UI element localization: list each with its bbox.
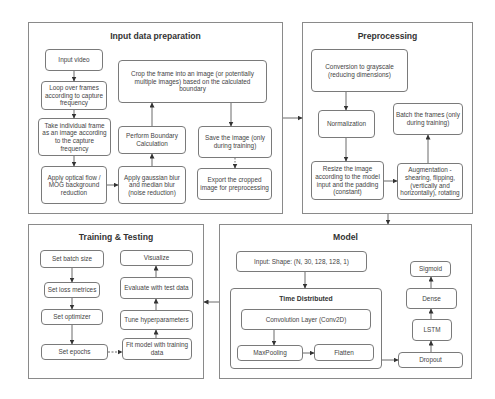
node-gaussian-blur: Apply gaussian blur and median blur (noi… [118,166,186,204]
node-input-video: Input video [45,49,103,71]
node-label: Conversion to grayscale (reducing dimens… [314,63,405,78]
node-set-epochs: Set epochs [41,344,108,360]
node-label: Augmentation - shearing, flipping, (vert… [400,166,460,196]
node-label: Perform Boundary Calculation [121,132,183,147]
node-conv2d: Convolution Layer (Conv2D) [241,309,371,330]
node-label: Fit model with training data [125,341,189,356]
node-label: Input video [58,56,89,64]
node-label: Resize the image according to the model … [314,165,381,195]
panel-title-input-data-preparation: Input data preparation [29,31,282,41]
node-label: Apply optical flow / MOG background redu… [44,174,104,197]
node-boundary-calculation: Perform Boundary Calculation [118,126,186,154]
node-set-batch-size: Set batch size [40,250,104,268]
node-label: Flatten [334,349,354,357]
node-set-optimizer: Set optimizer [41,309,103,325]
node-save-image: Save the image (only during training) [198,126,272,158]
node-label: Dense [422,295,440,303]
node-maxpooling: MaxPooling [237,345,303,361]
node-label: Set loss metrices [48,286,97,294]
node-export-image: Export the cropped image for preprocessi… [197,168,272,200]
node-label: Input: Shape: (N, 30, 128, 128, 1) [254,258,349,266]
node-label: Crop the frame into an image (or potenti… [121,70,264,93]
node-loop-frames: Loop over frames according to capture fr… [41,81,107,110]
panel-title-preprocessing: Preprocessing [303,31,472,41]
node-sigmoid: Sigmoid [410,261,451,277]
node-set-loss-metrics: Set loss metrices [44,282,100,298]
node-take-frame: Take individual frame as an image accord… [38,118,111,156]
node-label: Sigmoid [419,265,442,273]
node-optical-flow: Apply optical flow / MOG background redu… [41,166,107,204]
node-label: Export the cropped image for preprocessi… [200,176,269,191]
node-visualize: Visualize [120,250,193,266]
node-augmentation: Augmentation - shearing, flipping, (vert… [397,163,463,200]
node-label: Convolution Layer (Conv2D) [266,316,347,324]
node-resize: Resize the image according to the model … [311,161,384,200]
node-label: Loop over frames according to capture fr… [44,84,104,107]
node-evaluate: Evaluate with test data [120,277,193,299]
node-input-shape: Input: Shape: (N, 30, 128, 128, 1) [236,251,367,272]
node-label: Evaluate with test data [124,284,188,292]
node-label: LSTM [423,326,440,334]
node-normalization: Normalization [318,110,375,138]
node-lstm: LSTM [412,319,452,341]
node-label: Tune hyperparameters [124,316,188,324]
node-grayscale: Conversion to grayscale (reducing dimens… [311,49,408,92]
node-label: Set optimizer [53,313,90,321]
node-dense: Dense [406,288,457,309]
panel-title-model: Model [220,232,471,242]
node-label: MaxPooling [253,349,286,357]
group-title-time-distributed: Time Distributed [231,295,381,302]
node-flatten: Flatten [314,344,374,361]
node-label: Visualize [144,254,169,262]
node-label: Save the image (only during training) [201,134,269,149]
node-dropout: Dropout [398,352,463,368]
panel-title-training-testing: Training & Testing [29,232,203,242]
node-label: Set batch size [52,255,92,263]
node-label: Set epochs [59,348,91,356]
node-batch-frames: Batch the frames (only during training) [393,103,463,135]
node-label: Batch the frames (only during training) [396,111,460,126]
node-label: Take individual frame as an image accord… [41,122,108,152]
node-label: Normalization [327,120,366,128]
node-tune-hyperparameters: Tune hyperparameters [120,310,193,330]
node-label: Dropout [419,356,442,364]
node-label: Apply gaussian blur and median blur (noi… [121,174,183,197]
node-fit-model: Fit model with training data [122,338,192,360]
node-crop-frame: Crop the frame into an image (or potenti… [118,60,267,103]
